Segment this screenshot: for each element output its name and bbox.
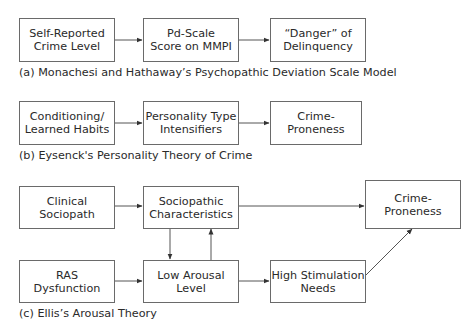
node-low-arousal-level: Low Arousal Level — [143, 260, 239, 303]
node-crime-proneness-c: Crime-Proneness — [365, 180, 461, 229]
node-self-reported-crime-level: Self-Reported Crime Level — [19, 18, 115, 62]
caption-c: (c) Ellis’s Arousal Theory — [19, 307, 157, 320]
node-conditioning-learned-habits: Conditioning/ Learned Habits — [19, 101, 115, 145]
node-crime-proneness-b: Crime-Proneness — [270, 101, 362, 145]
node-clinical-sociopath: Clinical Sociopath — [19, 186, 115, 229]
node-danger-of-delinquency: “Danger” of Delinquency — [270, 18, 366, 62]
node-sociopathic-characteristics: Sociopathic Characteristics — [143, 186, 239, 229]
caption-b: (b) Eysenck's Personality Theory of Crim… — [19, 149, 252, 162]
node-ras-dysfunction: RAS Dysfunction — [19, 260, 115, 303]
node-personality-type-intensifiers: Personality Type Intensifiers — [143, 101, 239, 145]
node-pd-scale-score: Pd-Scale Score on MMPI — [143, 18, 239, 62]
caption-a: (a) Monachesi and Hathaway’s Psychopathi… — [19, 66, 397, 79]
node-high-stimulation-needs: High Stimulation Needs — [270, 260, 366, 303]
